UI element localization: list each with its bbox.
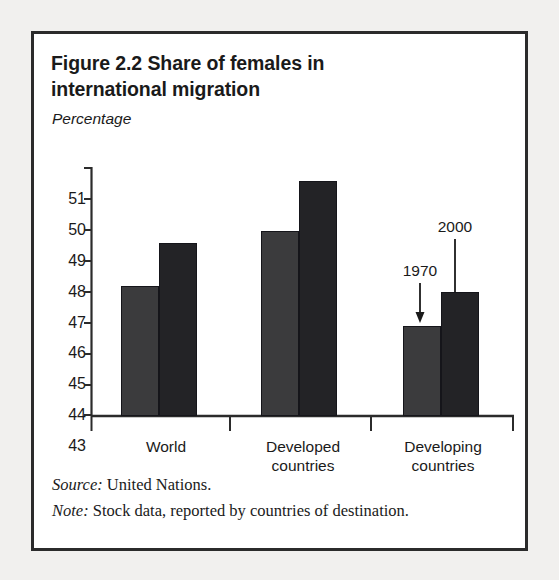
- x-group-label-world: World: [111, 437, 221, 456]
- footnote-note-lead: Note:: [52, 501, 89, 520]
- x-group-label-world-line-1: World: [146, 438, 186, 455]
- bar-developing-countries-1970: [403, 326, 441, 416]
- callout-arrow-1970: [416, 283, 425, 323]
- footnote-source-text: United Nations.: [103, 475, 212, 494]
- annotation-label-1970: 1970: [390, 263, 450, 279]
- bar-developed-countries-1970: [261, 231, 299, 416]
- footnote-source-lead: Source:: [52, 475, 103, 494]
- x-group-label-developing-line-1: Developing: [404, 438, 482, 455]
- bar-developing-countries-2000: [441, 292, 479, 416]
- footnote-note-text: Stock data, reported by countries of des…: [89, 501, 409, 520]
- bar-world-1970: [121, 286, 159, 416]
- bar-world-2000: [159, 243, 197, 416]
- x-group-label-developed-countries: Developed countries: [244, 437, 362, 475]
- figure-card: Figure 2.2 Share of females in internati…: [31, 31, 528, 551]
- figure-footnotes: Source: United Nations. Note: Stock data…: [52, 472, 512, 524]
- annotation-label-2000: 2000: [425, 219, 485, 235]
- x-group-label-developed-line-1: Developed: [266, 438, 340, 455]
- bar-developed-countries-2000: [299, 181, 337, 416]
- x-group-label-developing-countries: Developing countries: [384, 437, 502, 475]
- footnote-source: Source: United Nations.: [52, 472, 512, 498]
- footnote-note: Note: Stock data, reported by countries …: [52, 498, 512, 524]
